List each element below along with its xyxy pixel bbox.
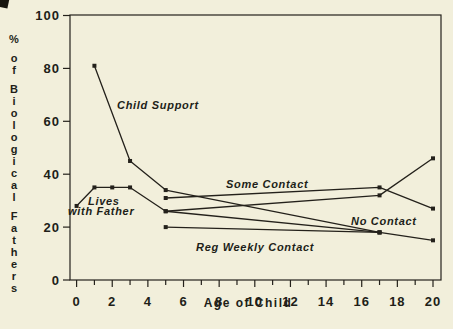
data-point-some-contact [164,196,168,200]
y-axis-title-letter: B [6,83,22,95]
y-axis-title-letter: l [6,119,22,131]
data-point-lives-with-father [110,185,114,189]
y-tick-label: 0 [52,273,60,288]
scanned-chart-page: %ofBiologicalFathers 0246810121416182002… [0,0,453,329]
y-tick-label: 80 [44,61,60,76]
data-point-no-contact [378,193,382,197]
y-axis-title-letter: t [6,234,22,246]
y-axis-title-letter: o [6,131,22,143]
y-axis-title-letter: r [6,270,22,282]
x-tick-label: 6 [179,294,187,309]
y-axis-title-letter: i [6,95,22,107]
y-axis-title-letter: l [6,191,22,203]
data-point-no-contact [431,156,435,160]
y-axis-title-letter: h [6,246,22,258]
series-label-child-support: Child Support [117,99,199,111]
y-tick-label: 20 [44,220,60,235]
data-point-no-contact [164,209,168,213]
series-label-reg-weekly-contact: Reg Weekly Contact [196,241,314,253]
series-label-no-contact: No Contact [351,215,417,227]
x-tick-label: 2 [108,294,116,309]
y-axis-title-word: Biological [6,83,22,203]
y-axis-title-letter: i [6,155,22,167]
x-tick-label: 0 [72,294,80,309]
data-point-child-support [128,159,132,163]
y-axis-title-letter: o [6,52,22,64]
data-point-some-contact [378,185,382,189]
y-axis-title-letter: f [6,64,22,76]
y-tick-label: 100 [35,8,60,23]
series-label-with-father: with Father [68,205,134,217]
y-tick-label: 60 [44,114,60,129]
x-tick-label: 20 [425,294,441,309]
y-axis-title-letter: g [6,143,22,155]
y-axis-title-letter: s [6,282,22,294]
data-point-child-support [164,188,168,192]
y-axis-title-word: Fathers [6,210,22,294]
y-axis-title-letter: o [6,107,22,119]
data-point-child-support [92,64,96,68]
y-axis-title: %ofBiologicalFathers [6,33,22,301]
data-point-lives-with-father [128,185,132,189]
line-chart: 02468101214161820020406080100 [0,0,453,329]
x-tick-label: 16 [353,294,369,309]
y-axis-title-letter: c [6,167,22,179]
x-tick-label: 18 [389,294,405,309]
x-tick-label: 4 [144,294,152,309]
y-axis-title-letter: % [6,33,22,45]
y-axis-title-word: of [6,52,22,76]
data-point-lives-with-father [92,185,96,189]
data-point-some-contact [431,207,435,211]
series-label-some-contact: Some Contact [226,178,308,190]
y-axis-title-word: % [6,33,22,45]
y-axis-title-letter: a [6,222,22,234]
y-axis-title-letter: e [6,258,22,270]
y-axis-title-letter: F [6,210,22,222]
y-axis-title-letter: a [6,179,22,191]
x-axis-title: Age of Child [188,296,308,310]
data-point-child-support [431,238,435,242]
y-tick-label: 40 [44,167,60,182]
x-tick-label: 14 [318,294,334,309]
data-point-reg-weekly-contact [378,230,382,234]
data-point-reg-weekly-contact [164,225,168,229]
